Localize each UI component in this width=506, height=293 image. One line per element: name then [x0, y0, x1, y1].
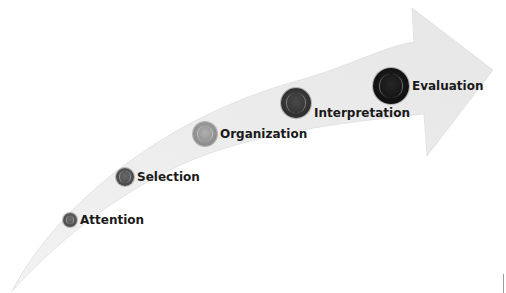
step-circle-icon [281, 88, 311, 118]
step-circle-icon [193, 122, 217, 146]
step-label: Attention [80, 213, 144, 227]
curved-arrow [0, 0, 506, 293]
step-label: Interpretation [314, 106, 410, 120]
step-evaluation: Evaluation [373, 68, 484, 104]
step-label: Organization [220, 127, 307, 141]
step-circle-icon [373, 68, 409, 104]
edge-divider [503, 274, 504, 293]
step-selection: Selection [116, 168, 200, 186]
step-label: Selection [137, 170, 200, 184]
step-attention: Attention [63, 213, 144, 227]
step-circle-icon [63, 213, 77, 227]
step-label: Evaluation [412, 79, 484, 93]
step-organization: Organization [193, 122, 307, 146]
step-circle-icon [116, 168, 134, 186]
